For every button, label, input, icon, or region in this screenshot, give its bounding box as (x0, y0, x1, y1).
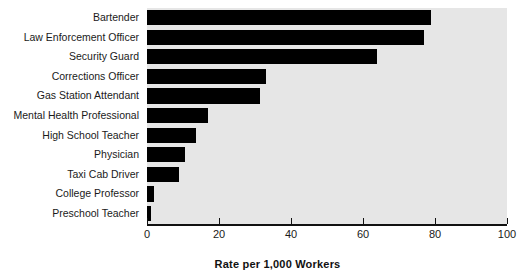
category-label: Preschool Teacher (0, 204, 143, 224)
bar-row (147, 28, 507, 48)
category-label: High School Teacher (0, 126, 143, 146)
bar (147, 49, 377, 64)
bar (147, 167, 179, 182)
bar (147, 108, 208, 123)
bar-row (147, 184, 507, 204)
category-label: Law Enforcement Officer (0, 28, 143, 48)
y-axis-category-labels: BartenderLaw Enforcement OfficerSecurity… (0, 8, 143, 224)
x-tick-mark (363, 218, 364, 224)
bar-row (147, 8, 507, 28)
bar-row (147, 145, 507, 165)
x-axis-line (147, 224, 507, 226)
plot-area (147, 8, 507, 224)
bar (147, 69, 266, 84)
x-tick-label: 100 (498, 228, 516, 240)
bar (147, 186, 154, 201)
bar-chart: BartenderLaw Enforcement OfficerSecurity… (0, 0, 523, 279)
bar-row (147, 126, 507, 146)
category-label: Physician (0, 145, 143, 165)
bar (147, 128, 196, 143)
x-tick-label: 40 (285, 228, 297, 240)
category-label: Corrections Officer (0, 67, 143, 87)
x-tick-mark (291, 218, 292, 224)
x-tick-mark (147, 218, 148, 224)
bar (147, 30, 424, 45)
category-label: Security Guard (0, 47, 143, 67)
bar-row (147, 204, 507, 224)
x-tick-label: 80 (429, 228, 441, 240)
bar (147, 88, 260, 103)
bar (147, 147, 185, 162)
bar-row (147, 86, 507, 106)
bar (147, 10, 431, 25)
x-tick-mark (507, 218, 508, 224)
bar-row (147, 106, 507, 126)
category-label: Gas Station Attendant (0, 86, 143, 106)
category-label: Taxi Cab Driver (0, 165, 143, 185)
x-axis-title-text: Rate per 1,000 Workers (215, 258, 341, 270)
x-tick-label: 0 (144, 228, 150, 240)
x-tick-label: 20 (213, 228, 225, 240)
category-label: College Professor (0, 184, 143, 204)
x-axis-title: Rate per 1,000 Workers (0, 258, 523, 270)
x-tick-mark (219, 218, 220, 224)
bar-row (147, 165, 507, 185)
x-tick-label: 60 (357, 228, 369, 240)
category-label: Bartender (0, 8, 143, 28)
bar-row (147, 47, 507, 67)
bar-row (147, 67, 507, 87)
category-label: Mental Health Professional (0, 106, 143, 126)
x-tick-mark (435, 218, 436, 224)
